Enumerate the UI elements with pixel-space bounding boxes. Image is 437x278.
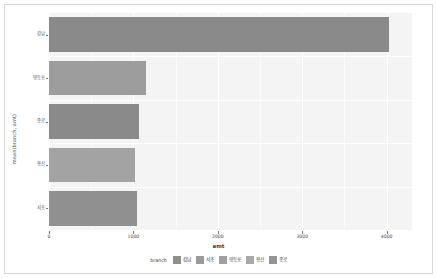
bar bbox=[49, 191, 137, 226]
bar bbox=[49, 61, 146, 96]
legend-color-swatch bbox=[246, 256, 254, 264]
legend-color-swatch bbox=[269, 256, 277, 264]
legend-color-swatch bbox=[196, 256, 204, 264]
y-tick-mark bbox=[46, 165, 48, 166]
legend-label: 서초 bbox=[206, 258, 214, 263]
legend-color-swatch bbox=[173, 256, 181, 264]
gridline-horizontal bbox=[49, 56, 412, 57]
legend-item[interactable]: 종로 bbox=[269, 256, 287, 264]
x-tick-label: 3000 bbox=[296, 235, 308, 240]
legend-color-swatch bbox=[219, 256, 227, 264]
plot-panel bbox=[49, 13, 412, 230]
legend-item[interactable]: 강남 bbox=[173, 256, 191, 264]
y-tick-mark bbox=[46, 78, 48, 79]
bar bbox=[49, 104, 139, 139]
legend-item[interactable]: 서초 bbox=[196, 256, 214, 264]
x-tick-label: 4000 bbox=[381, 235, 393, 240]
y-tick-label: 영등포 bbox=[24, 76, 45, 80]
gridline-horizontal bbox=[49, 187, 412, 188]
legend-label: 강남 bbox=[183, 258, 191, 263]
y-axis-title: mean(branch, amt) bbox=[11, 114, 17, 164]
y-tick-label: 서초 bbox=[24, 206, 45, 210]
bar bbox=[49, 148, 135, 183]
bar bbox=[49, 17, 389, 52]
x-axis-title: amt bbox=[0, 243, 437, 249]
gridline-horizontal bbox=[49, 100, 412, 101]
x-tick-label: 2000 bbox=[212, 235, 224, 240]
chart-figure: mean(branch, amt) 강남영등포종로용산서초 0100020003… bbox=[0, 0, 437, 278]
legend-label: 종로 bbox=[279, 258, 287, 263]
gridline-horizontal bbox=[49, 143, 412, 144]
legend-label: 용산 bbox=[256, 258, 264, 263]
legend-item[interactable]: 용산 bbox=[246, 256, 264, 264]
legend-title: branch bbox=[150, 258, 167, 263]
y-tick-mark bbox=[46, 122, 48, 123]
chart-legend: branch 강남서초영등포용산종로 bbox=[0, 256, 437, 264]
y-tick-mark bbox=[46, 35, 48, 36]
y-tick-label: 강남 bbox=[24, 32, 45, 36]
y-tick-label: 용산 bbox=[24, 162, 45, 166]
legend-item[interactable]: 영등포 bbox=[219, 256, 241, 264]
y-tick-label: 종로 bbox=[24, 119, 45, 123]
legend-items: 강남서초영등포용산종로 bbox=[173, 256, 287, 264]
x-tick-label: 0 bbox=[48, 235, 51, 240]
legend-label: 영등포 bbox=[229, 258, 241, 263]
x-tick-label: 1000 bbox=[128, 235, 140, 240]
y-tick-mark bbox=[46, 208, 48, 209]
